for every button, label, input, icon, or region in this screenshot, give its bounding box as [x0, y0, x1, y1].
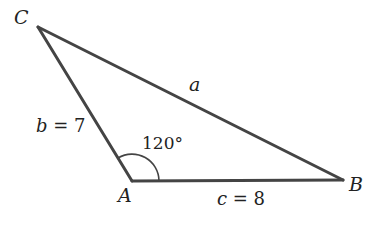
side-c-value: = 8 — [227, 188, 265, 209]
angle-a-label: 120° — [142, 135, 183, 152]
side-b-variable: b — [36, 115, 48, 136]
vertex-c-label: C — [14, 8, 29, 27]
side-a-label: a — [189, 75, 200, 94]
vertex-a-label: A — [118, 186, 132, 205]
vertex-b-label: B — [349, 175, 363, 194]
side-b-label: b = 7 — [36, 117, 86, 135]
side-b-value: = 7 — [48, 115, 86, 136]
side-c-label: c = 8 — [217, 190, 265, 208]
side-c-line — [132, 180, 343, 181]
side-c-variable: c — [217, 188, 227, 209]
